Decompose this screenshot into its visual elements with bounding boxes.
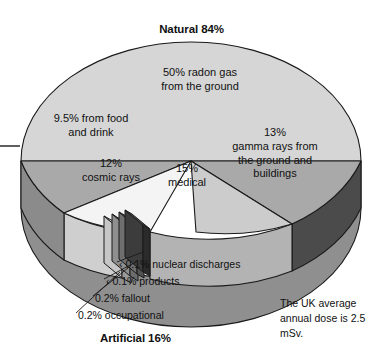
- chart-title-natural: Natural 84%: [0, 22, 383, 36]
- slice-label-medical: 15% medical: [152, 162, 222, 190]
- slice-label-cosmic-rays: 12% cosmic rays: [56, 157, 166, 185]
- slice-label-food-and-drink: 9.5% from food and drink: [26, 112, 156, 140]
- slice-label-gamma-rays: 13% gamma rays from the ground and build…: [219, 126, 331, 181]
- footnote-uk-average-dose: The UK average annual dose is 2.5 mSv.: [280, 296, 383, 342]
- callout-label-occupational: 0.2% occupational: [78, 309, 164, 322]
- callout-label-fallout: 0.2% fallout: [95, 292, 150, 305]
- figure-canvas: Natural 84% Artificial 16% 50% radon gas…: [0, 0, 383, 363]
- slice-label-radon: 50% radon gas from the ground: [120, 66, 280, 94]
- callout-label-nuclear-discharges: ‹ 0.1% nuclear discharges: [119, 258, 240, 271]
- chart-title-artificial: Artificial 16%: [100, 331, 280, 345]
- callout-label-products: ‹ 0.1% products: [106, 275, 180, 288]
